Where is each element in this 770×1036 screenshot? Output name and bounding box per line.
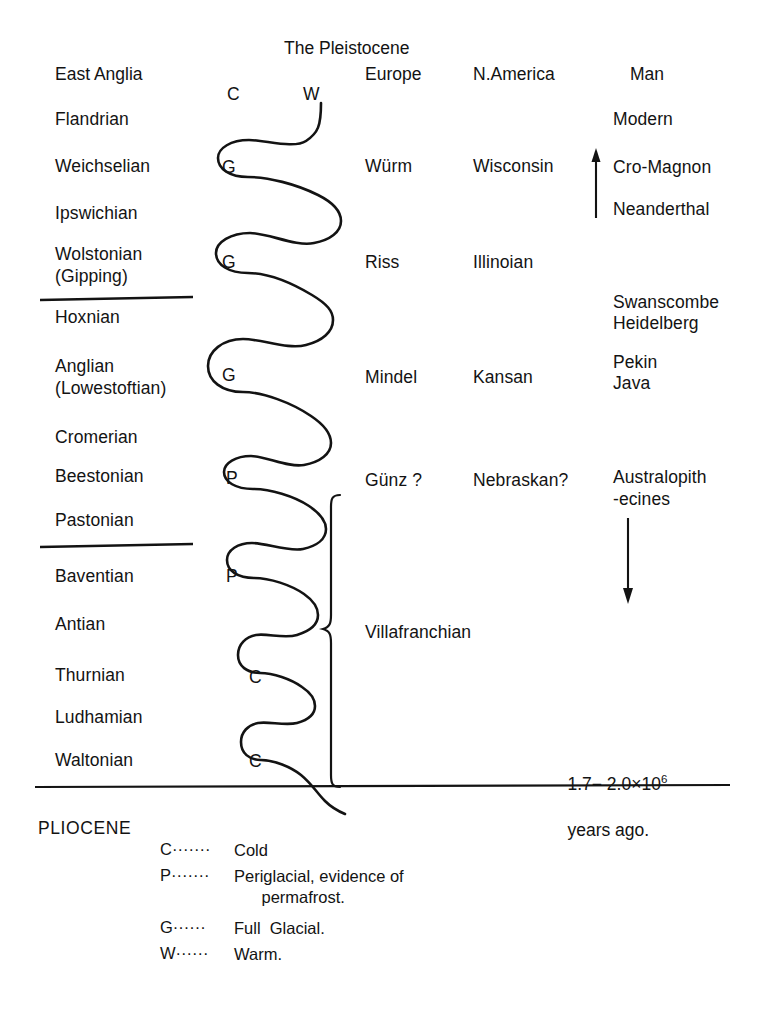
- bracket-label-villafranchian: Villafranchian: [365, 622, 471, 643]
- east-anglia-stage-11: Antian: [55, 614, 105, 635]
- east-anglia-stage-14: Waltonian: [55, 750, 133, 771]
- curve-marker-6: C: [249, 667, 262, 688]
- namerica-stage-3: Kansan: [473, 367, 533, 388]
- namerica-stage-1: Wisconsin: [473, 156, 554, 177]
- legend-key-w: W······: [160, 944, 209, 963]
- column-header-east-anglia: East Anglia: [55, 64, 143, 85]
- pleistocene-chronology-diagram: The Pleistocene East Anglia C W Europe N…: [0, 0, 770, 1036]
- divider-line-baventian: [40, 544, 193, 547]
- east-anglia-stage-4: Wolstonian (Gipping): [55, 243, 142, 287]
- curve-header-cold: C: [227, 84, 240, 105]
- east-anglia-stage-5: Hoxnian: [55, 307, 120, 328]
- east-anglia-stage-3: Ipswichian: [55, 203, 138, 224]
- man-entry-6: Pekin: [613, 352, 657, 373]
- legend-key-p: P·······: [160, 866, 209, 885]
- east-anglia-stage-12: Thurnian: [55, 665, 125, 686]
- diagram-title: The Pleistocene: [284, 38, 410, 59]
- legend-key-g: G······: [160, 918, 206, 937]
- australopithecine-descending-arrow: [623, 518, 633, 604]
- legend-key-c: C·······: [160, 840, 210, 859]
- divider-line-hoxnian: [40, 297, 193, 300]
- curve-marker-4: P: [226, 468, 238, 489]
- europe-stage-4: Günz ?: [365, 470, 422, 491]
- pliocene-label: PLIOCENE: [38, 818, 131, 839]
- east-anglia-stage-10: Baventian: [55, 566, 134, 587]
- legend-text-c: Cold: [234, 840, 268, 861]
- villafranchian-bracket: [323, 495, 340, 787]
- curve-marker-3: G: [222, 365, 236, 386]
- curve-marker-5: P: [226, 566, 238, 587]
- man-entry-2: Cro-Magnon: [613, 157, 711, 178]
- curve-header-warm: W: [303, 84, 320, 105]
- east-anglia-stage-13: Ludhamian: [55, 707, 143, 728]
- man-entry-1: Modern: [613, 109, 673, 130]
- europe-stage-1: Würm: [365, 156, 412, 177]
- climate-curve: [208, 103, 345, 814]
- east-anglia-stage-1: Flandrian: [55, 109, 129, 130]
- europe-stage-3: Mindel: [365, 367, 417, 388]
- age-units: years ago.: [567, 820, 649, 840]
- man-entry-5: Heidelberg: [613, 313, 699, 334]
- legend-text-w: Warm.: [234, 944, 282, 965]
- column-header-man: Man: [630, 64, 664, 85]
- legend-text-p: Periglacial, evidence of permafrost.: [234, 866, 404, 908]
- curve-marker-1: G: [222, 157, 236, 178]
- column-header-namerica: N.America: [473, 64, 555, 85]
- east-anglia-stage-8: Beestonian: [55, 466, 144, 487]
- europe-stage-2: Riss: [365, 252, 399, 273]
- man-entry-7: Java: [613, 373, 650, 394]
- east-anglia-stage-2: Weichselian: [55, 156, 150, 177]
- man-entry-8: Australopith -ecines: [613, 466, 707, 510]
- namerica-stage-2: Illinoian: [473, 252, 533, 273]
- namerica-stage-4: Nebraskan?: [473, 470, 568, 491]
- man-ascending-arrow: [592, 148, 601, 218]
- curve-marker-7: C: [249, 751, 262, 772]
- man-entry-3: Neanderthal: [613, 199, 709, 220]
- curve-marker-2: G: [222, 252, 236, 273]
- east-anglia-stage-9: Pastonian: [55, 510, 134, 531]
- column-header-europe: Europe: [365, 64, 421, 85]
- east-anglia-stage-6: Anglian (Lowestoftian): [55, 355, 166, 399]
- east-anglia-stage-7: Cromerian: [55, 427, 138, 448]
- age-note: 1.7− 2.0×106 years ago.: [548, 745, 667, 865]
- age-exponent: 6: [661, 773, 667, 785]
- legend-text-g: Full Glacial.: [234, 918, 325, 939]
- age-value: 1.7− 2.0×10: [567, 774, 660, 794]
- man-entry-4: Swanscombe: [613, 292, 719, 313]
